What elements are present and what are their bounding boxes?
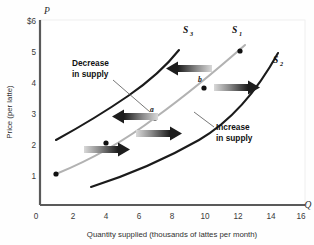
data-point-4-2	[103, 140, 108, 145]
supply-shift-chart: P Q $6 5 4 3 2 1 0 2 4 6 8 10 12 14 16 Q…	[0, 0, 314, 245]
svg-text:Decrease: Decrease	[72, 58, 109, 68]
chart-figure: P Q $6 5 4 3 2 1 0 2 4 6 8 10 12 14 16 Q…	[0, 0, 314, 245]
svg-text:S: S	[273, 55, 278, 65]
svg-text:1: 1	[239, 30, 242, 37]
data-point-12-5	[237, 48, 242, 53]
point-label-a: a	[150, 105, 154, 114]
svg-text:3: 3	[189, 30, 193, 37]
x-tick-14: 14	[266, 212, 276, 221]
y-axis-symbol: P	[43, 6, 50, 16]
y-tick-2: 2	[31, 141, 36, 150]
y-tick-5: 5	[31, 48, 36, 57]
svg-text:in supply: in supply	[72, 69, 109, 79]
point-label-b: b	[198, 75, 202, 84]
svg-text:Increase: Increase	[216, 122, 250, 132]
y-tick-6: $6	[27, 17, 37, 26]
svg-text:2: 2	[279, 60, 283, 67]
x-tick-8: 8	[170, 212, 175, 221]
svg-text:in supply: in supply	[216, 133, 253, 143]
x-tick-0: 0	[34, 212, 39, 221]
y-axis-title: Price (per latte)	[5, 85, 14, 139]
x-tick-2: 2	[71, 212, 76, 221]
y-tick-3: 3	[31, 110, 36, 119]
x-axis-title: Quantity supplied (thousands of lattes p…	[87, 230, 258, 239]
x-tick-12: 12	[233, 212, 243, 221]
x-axis-symbol: Q	[305, 200, 312, 210]
x-tick-16: 16	[296, 212, 306, 221]
x-tick-10: 10	[200, 212, 210, 221]
plot-area	[40, 20, 305, 205]
data-point-1-1	[53, 171, 58, 176]
y-tick-4: 4	[31, 79, 36, 88]
svg-text:S: S	[183, 25, 188, 35]
x-tick-6: 6	[137, 212, 142, 221]
data-point-b	[201, 85, 206, 90]
svg-text:S: S	[232, 25, 237, 35]
y-tick-1: 1	[31, 172, 36, 181]
x-tick-4: 4	[104, 212, 109, 221]
